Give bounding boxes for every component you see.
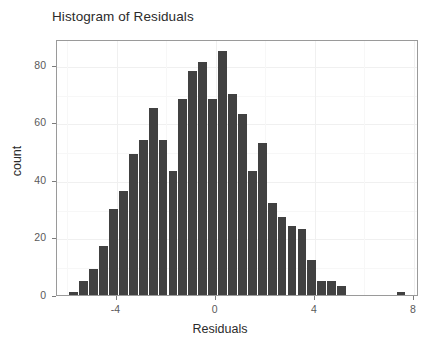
x-tick-label: -4 bbox=[96, 303, 136, 315]
histogram-bar bbox=[188, 71, 197, 295]
y-tick-mark bbox=[52, 296, 56, 297]
histogram-bar bbox=[307, 260, 316, 295]
x-tick-label: 8 bbox=[393, 303, 433, 315]
histogram-bar bbox=[327, 281, 336, 295]
histogram-chart: Histogram of Residuals 020406080 -4048 R… bbox=[0, 0, 440, 343]
histogram-bar bbox=[238, 114, 247, 295]
histogram-bar bbox=[198, 62, 207, 295]
histogram-bar bbox=[129, 154, 138, 295]
x-tick-mark bbox=[413, 296, 414, 300]
histogram-bar bbox=[79, 281, 88, 295]
histogram-bar bbox=[89, 269, 98, 295]
y-axis-title: count bbox=[10, 126, 24, 196]
histogram-bar bbox=[119, 191, 128, 295]
gridline-minor-x bbox=[67, 41, 68, 295]
y-tick-mark bbox=[52, 66, 56, 67]
x-tick-label: 4 bbox=[294, 303, 334, 315]
histogram-bar bbox=[218, 51, 227, 295]
histogram-bar bbox=[248, 171, 257, 295]
y-tick-mark bbox=[52, 238, 56, 239]
x-tick-mark bbox=[215, 296, 216, 300]
gridline-major-y bbox=[57, 182, 417, 183]
histogram-bar bbox=[109, 209, 118, 295]
histogram-bar bbox=[278, 217, 287, 295]
y-tick-mark bbox=[52, 123, 56, 124]
histogram-bar bbox=[288, 226, 297, 295]
histogram-bar bbox=[159, 140, 168, 295]
x-axis-title: Residuals bbox=[0, 322, 440, 336]
gridline-minor-y bbox=[57, 153, 417, 154]
histogram-bar bbox=[337, 286, 346, 295]
histogram-bar bbox=[258, 143, 267, 295]
histogram-bar bbox=[178, 99, 187, 295]
histogram-bar bbox=[139, 140, 148, 295]
gridline-major-x bbox=[414, 41, 415, 295]
x-tick-mark bbox=[116, 296, 117, 300]
y-tick-label: 80 bbox=[12, 59, 46, 71]
gridline-major-y bbox=[57, 67, 417, 68]
x-tick-mark bbox=[314, 296, 315, 300]
y-tick-mark bbox=[52, 181, 56, 182]
chart-title: Histogram of Residuals bbox=[52, 9, 194, 24]
histogram-bar bbox=[397, 292, 406, 295]
gridline-major-x bbox=[315, 41, 316, 295]
gridline-major-y bbox=[57, 124, 417, 125]
y-tick-label: 20 bbox=[12, 231, 46, 243]
plot-panel bbox=[56, 40, 418, 296]
histogram-bar bbox=[99, 246, 108, 295]
histogram-bar bbox=[208, 99, 217, 295]
histogram-bar bbox=[169, 171, 178, 295]
histogram-bar bbox=[149, 108, 158, 295]
y-tick-label: 0 bbox=[12, 289, 46, 301]
histogram-bar bbox=[298, 229, 307, 295]
gridline-minor-y bbox=[57, 96, 417, 97]
histogram-bar bbox=[268, 203, 277, 295]
histogram-bar bbox=[228, 94, 237, 295]
histogram-bar bbox=[317, 281, 326, 295]
gridline-minor-x bbox=[364, 41, 365, 295]
x-tick-label: 0 bbox=[195, 303, 235, 315]
histogram-bar bbox=[69, 292, 78, 295]
